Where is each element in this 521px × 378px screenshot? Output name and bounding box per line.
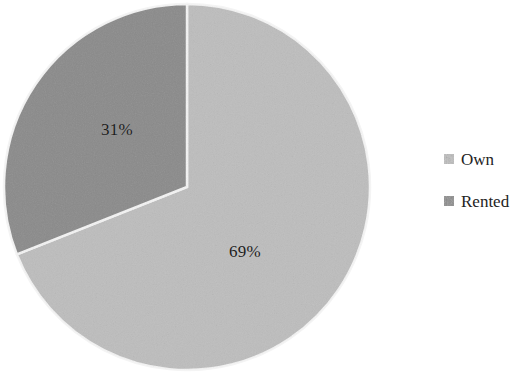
chart-legend: Own Rented [444, 148, 521, 232]
legend-item-own[interactable]: Own [444, 148, 521, 170]
legend-label-rented: Rented [461, 193, 509, 210]
pie-label-own: 69% [229, 242, 261, 262]
legend-swatch-rented-icon [444, 196, 454, 206]
pie-plot-area: 31% 69% [0, 0, 380, 378]
legend-swatch-own-icon [444, 154, 454, 164]
pie-label-rented: 31% [101, 120, 133, 140]
pie-svg [0, 0, 380, 378]
legend-item-rented[interactable]: Rented [444, 190, 521, 212]
legend-label-own: Own [461, 151, 494, 168]
pie-chart: 31% 69% Own Rented [0, 0, 521, 378]
